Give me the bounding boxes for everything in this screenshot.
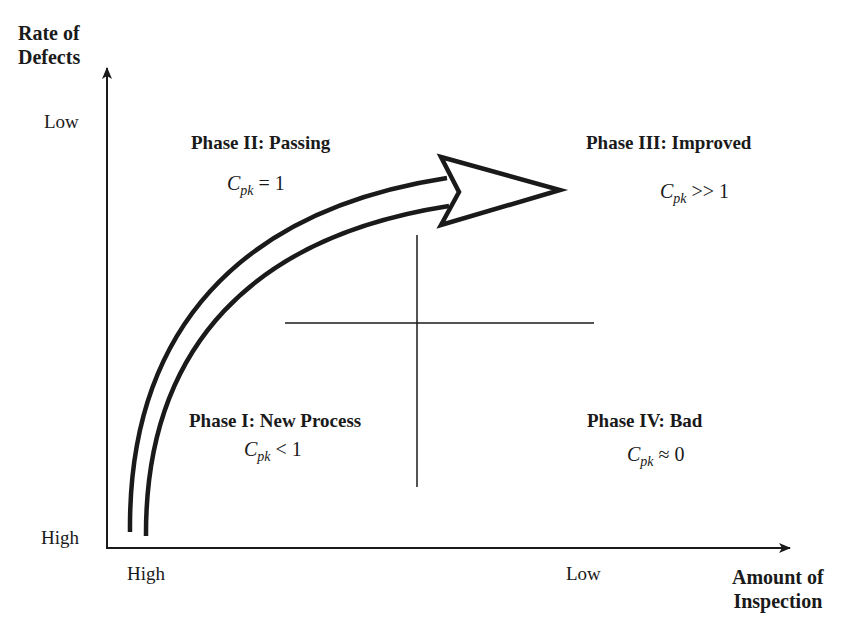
cpk-relation: >> 1: [692, 180, 730, 202]
diagram-graphics: [0, 0, 855, 634]
x-axis-title: Amount of Inspection: [732, 565, 824, 613]
cpk-subscript: pk: [673, 191, 686, 206]
cpk-symbol: C: [244, 438, 257, 460]
cpk-symbol: C: [227, 172, 240, 194]
cpk-relation: = 1: [259, 172, 285, 194]
cpk-subscript: pk: [640, 454, 653, 469]
cpk-subscript: pk: [257, 449, 270, 464]
cpk-subscript: pk: [240, 183, 253, 198]
y-tick-high: High: [41, 527, 79, 549]
quadrant-diagram: Rate of Defects Low High High Low Amount…: [0, 0, 855, 634]
phase-4-title: Phase IV: Bad: [587, 410, 702, 432]
phase-3-cpk: Cpk >> 1: [660, 180, 729, 203]
x-tick-high: High: [127, 563, 165, 585]
phase-3-title: Phase III: Improved: [586, 132, 751, 154]
phase-4-cpk: Cpk ≈ 0: [627, 443, 685, 466]
phase-2-cpk: Cpk = 1: [227, 172, 285, 195]
progression-arrow-icon: [130, 157, 560, 536]
cpk-symbol: C: [660, 180, 673, 202]
cpk-relation: < 1: [276, 438, 302, 460]
y-axis-title-line1: Rate of: [18, 21, 80, 45]
phase-2-title: Phase II: Passing: [191, 132, 330, 154]
x-tick-low: Low: [566, 563, 601, 585]
y-axis-title-line2: Defects: [18, 45, 80, 69]
cpk-symbol: C: [627, 443, 640, 465]
x-axis-title-line2: Inspection: [732, 589, 824, 613]
y-axis-title: Rate of Defects: [18, 21, 80, 69]
y-tick-low: Low: [44, 111, 79, 133]
cpk-relation: ≈ 0: [659, 443, 685, 465]
phase-1-title: Phase I: New Process: [189, 410, 361, 432]
x-axis-title-line1: Amount of: [732, 565, 824, 589]
phase-1-cpk: Cpk < 1: [244, 438, 302, 461]
